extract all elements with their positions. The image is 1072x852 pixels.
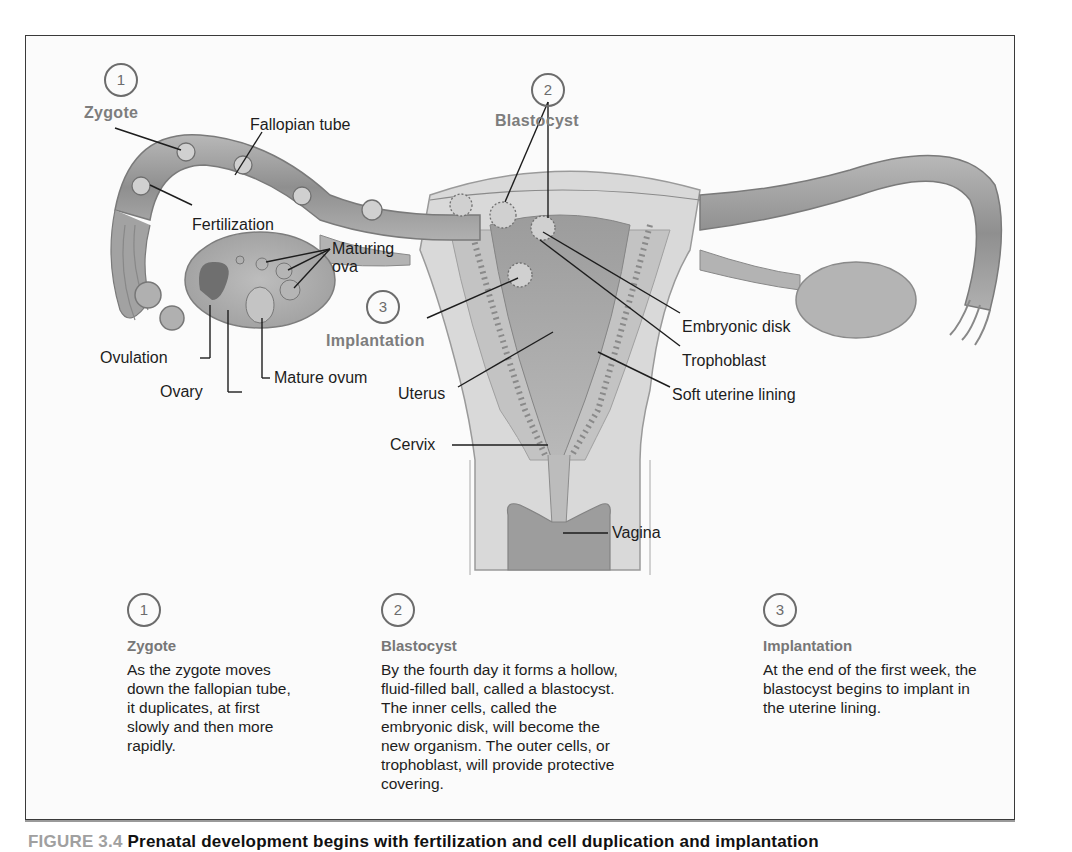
step-2-marker: 2 bbox=[531, 73, 565, 107]
label-cervix: Cervix bbox=[390, 436, 435, 454]
figure-caption: FIGURE 3.4 Prenatal development begins w… bbox=[28, 832, 819, 852]
step-3-number: 3 bbox=[763, 593, 797, 627]
label-fallopian-tube: Fallopian tube bbox=[250, 116, 351, 134]
implantation-step-label: Implantation bbox=[326, 332, 425, 350]
step-3-title: Implantation bbox=[763, 637, 1063, 654]
step-2-title: Blastocyst bbox=[381, 637, 681, 654]
step-2-body: By the fourth day it forms a hollow, flu… bbox=[381, 660, 621, 793]
step-1-body: As the zygote moves down the fallopian t… bbox=[127, 660, 297, 755]
step-3-body: At the end of the first week, the blasto… bbox=[763, 660, 978, 717]
step-1-marker: 1 bbox=[104, 63, 138, 97]
figure-number: FIGURE 3.4 bbox=[28, 832, 123, 851]
label-embryonic-disk: Embryonic disk bbox=[682, 318, 790, 336]
label-vagina: Vagina bbox=[612, 524, 661, 542]
caption-text: Prenatal development begins with fertili… bbox=[128, 832, 819, 851]
label-maturing: Maturing bbox=[332, 240, 394, 258]
label-mature-ovum: Mature ovum bbox=[274, 369, 367, 387]
step-description-blastocyst: 2 Blastocyst By the fourth day it forms … bbox=[381, 593, 681, 793]
label-uterus: Uterus bbox=[398, 385, 445, 403]
step-2-number: 2 bbox=[381, 593, 415, 627]
step-description-implantation: 3 Implantation At the end of the first w… bbox=[763, 593, 1063, 717]
step-3-marker: 3 bbox=[366, 290, 400, 324]
label-trophoblast: Trophoblast bbox=[682, 352, 766, 370]
label-ovulation: Ovulation bbox=[100, 349, 168, 367]
zygote-step-label: Zygote bbox=[84, 104, 138, 122]
label-fertilization: Fertilization bbox=[192, 216, 274, 234]
blastocyst-step-label: Blastocyst bbox=[495, 112, 579, 130]
step-1-number: 1 bbox=[127, 593, 161, 627]
label-soft-uterine-lining: Soft uterine lining bbox=[672, 386, 796, 404]
label-ovary: Ovary bbox=[160, 383, 203, 401]
label-ova: ova bbox=[332, 258, 358, 276]
